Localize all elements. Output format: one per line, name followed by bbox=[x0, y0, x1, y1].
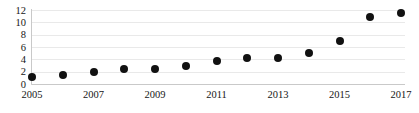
data-point bbox=[182, 62, 190, 70]
gridline bbox=[32, 47, 405, 48]
x-axis-tick-label: 2005 bbox=[12, 89, 52, 100]
y-axis-tick-label: 0 bbox=[0, 79, 26, 90]
x-axis-tick-label: 2011 bbox=[197, 89, 237, 100]
x-axis-tick-label: 2015 bbox=[320, 89, 360, 100]
gridline bbox=[32, 10, 405, 11]
x-axis-tick-label: 2013 bbox=[258, 89, 298, 100]
data-point bbox=[120, 65, 128, 73]
gridline bbox=[32, 72, 405, 73]
gridline bbox=[32, 22, 405, 23]
data-point bbox=[28, 73, 36, 81]
x-axis-tick-label: 2017 bbox=[381, 89, 419, 100]
gridline bbox=[32, 35, 405, 36]
y-axis-tick-label: 6 bbox=[0, 42, 26, 53]
data-point bbox=[336, 37, 344, 45]
y-axis-tick-label: 10 bbox=[0, 17, 26, 28]
data-point bbox=[213, 57, 221, 65]
y-axis-tick-label: 8 bbox=[0, 29, 26, 40]
data-point bbox=[243, 54, 251, 62]
data-point bbox=[274, 54, 282, 62]
x-axis-tick-label: 2007 bbox=[74, 89, 114, 100]
y-axis-tick-label: 2 bbox=[0, 66, 26, 77]
data-point bbox=[305, 49, 313, 57]
data-point bbox=[397, 9, 405, 17]
scatter-chart: 024681012 2005200720092011201320152017 bbox=[0, 0, 419, 113]
data-point bbox=[366, 13, 374, 21]
data-point bbox=[90, 68, 98, 76]
data-point bbox=[59, 71, 67, 79]
x-axis-tick-label: 2009 bbox=[135, 89, 175, 100]
gridline bbox=[32, 84, 405, 85]
y-axis-tick-label: 4 bbox=[0, 54, 26, 65]
data-point bbox=[151, 65, 159, 73]
y-axis-tick-label: 12 bbox=[0, 5, 26, 16]
